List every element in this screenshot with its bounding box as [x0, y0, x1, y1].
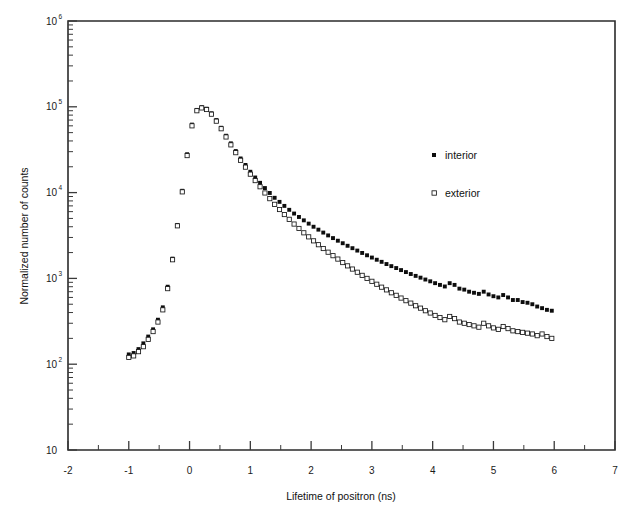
- y-tick-exponent: 5: [59, 98, 63, 105]
- data-point: [190, 124, 194, 128]
- data-point: [287, 208, 291, 212]
- data-point: [467, 290, 471, 294]
- data-point: [141, 345, 145, 349]
- data-point: [345, 264, 349, 268]
- data-point: [511, 298, 515, 302]
- data-point: [253, 179, 257, 183]
- data-point: [423, 278, 427, 282]
- x-tick-label: 7: [612, 465, 618, 476]
- data-point: [287, 217, 291, 221]
- legend-marker-exterior: [432, 191, 436, 195]
- x-tick-label: 5: [491, 465, 497, 476]
- data-point: [525, 331, 529, 335]
- data-point: [423, 309, 427, 313]
- data-point: [535, 305, 539, 309]
- data-point: [399, 296, 403, 300]
- data-point: [491, 326, 495, 330]
- data-point: [535, 334, 539, 338]
- data-point: [360, 251, 364, 255]
- data-point: [312, 225, 316, 229]
- data-point: [530, 302, 534, 306]
- data-point: [438, 283, 442, 287]
- data-point: [185, 153, 189, 157]
- data-point: [477, 292, 481, 296]
- data-point: [462, 321, 466, 325]
- data-point: [501, 293, 505, 297]
- x-tick-label: -2: [64, 465, 73, 476]
- data-point: [462, 288, 466, 292]
- y-tick-label: 10: [46, 359, 58, 370]
- data-point: [516, 329, 520, 333]
- data-point: [307, 222, 311, 226]
- data-point: [302, 218, 306, 222]
- data-point: [457, 320, 461, 324]
- x-tick-label: 3: [369, 465, 375, 476]
- y-tick-exponent: 2: [59, 356, 63, 363]
- data-point: [477, 325, 481, 329]
- data-point: [302, 231, 306, 235]
- data-point: [404, 270, 408, 274]
- data-point: [263, 191, 267, 195]
- data-point: [355, 249, 359, 253]
- data-point: [331, 254, 335, 258]
- data-point: [248, 172, 252, 176]
- data-point: [321, 231, 325, 235]
- data-point: [486, 324, 490, 328]
- data-point: [297, 215, 301, 219]
- data-point: [365, 253, 369, 257]
- data-point: [433, 313, 437, 317]
- y-tick-exponent: 6: [59, 13, 63, 20]
- data-point: [258, 181, 262, 185]
- data-point: [292, 212, 296, 216]
- data-point: [316, 228, 320, 232]
- data-point: [399, 268, 403, 272]
- data-point: [404, 299, 408, 303]
- data-point: [448, 314, 452, 318]
- chart-canvas: 10102103104105106 -2-101234567 interiore…: [0, 0, 635, 517]
- data-point: [506, 295, 510, 299]
- data-point: [321, 246, 325, 250]
- data-point: [530, 332, 534, 336]
- data-point: [521, 300, 525, 304]
- data-point: [282, 204, 286, 208]
- data-point: [336, 257, 340, 261]
- data-point: [273, 196, 277, 200]
- data-point: [380, 260, 384, 264]
- data-point: [385, 262, 389, 266]
- data-point: [132, 354, 136, 358]
- data-point: [482, 290, 486, 294]
- y-tick-label: 10: [46, 445, 58, 456]
- data-point: [170, 258, 174, 262]
- data-point: [214, 119, 218, 123]
- data-point: [341, 260, 345, 264]
- data-point: [263, 186, 267, 190]
- data-point: [467, 322, 471, 326]
- data-point: [278, 200, 282, 204]
- data-point: [234, 151, 238, 155]
- data-point: [545, 308, 549, 312]
- data-point: [350, 246, 354, 250]
- data-point: [506, 327, 510, 331]
- data-point: [540, 332, 544, 336]
- data-point: [331, 236, 335, 240]
- data-point: [204, 107, 208, 111]
- data-point: [438, 315, 442, 319]
- data-point: [341, 241, 345, 245]
- data-point: [365, 276, 369, 280]
- x-tick-label: 4: [430, 465, 436, 476]
- data-point: [452, 317, 456, 321]
- data-point: [428, 311, 432, 315]
- data-point: [418, 306, 422, 310]
- data-point: [146, 337, 150, 341]
- data-point: [550, 309, 554, 313]
- data-point: [180, 190, 184, 194]
- legend-label-exterior: exterior: [445, 187, 481, 199]
- data-point: [443, 318, 447, 322]
- data-point: [166, 287, 170, 291]
- data-point: [526, 301, 530, 305]
- data-point: [195, 109, 199, 113]
- data-point: [311, 239, 315, 243]
- data-point: [409, 301, 413, 305]
- data-point: [346, 244, 350, 248]
- data-point: [297, 226, 301, 230]
